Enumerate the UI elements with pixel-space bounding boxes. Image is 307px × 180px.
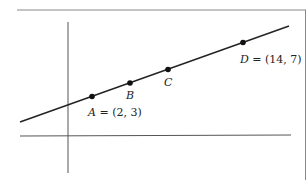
line-AD bbox=[20, 26, 289, 122]
label-B: B bbox=[125, 89, 134, 102]
label-C: C bbox=[164, 76, 173, 89]
point-D bbox=[240, 40, 246, 46]
point-B bbox=[127, 80, 133, 86]
coordinate-diagram: A = (2, 3) B C D = (14, 7) bbox=[0, 0, 307, 180]
point-A bbox=[89, 94, 95, 100]
point-C bbox=[165, 67, 171, 73]
label-A: A = (2, 3) bbox=[87, 106, 142, 119]
label-D: D = (14, 7) bbox=[239, 53, 302, 66]
x-axis bbox=[20, 135, 291, 136]
